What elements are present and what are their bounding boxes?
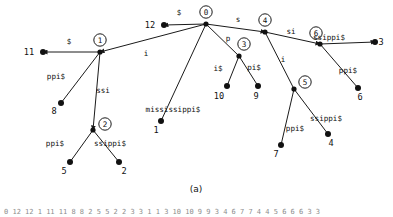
tree-edge <box>164 24 206 25</box>
tree-edge <box>227 56 239 86</box>
tree-edge <box>206 24 265 32</box>
tree-edge <box>206 24 239 56</box>
leaf-node <box>278 142 284 148</box>
suffix-tree-figure: $imississippi$ps$ppi$ssippi$ssippi$i$pi$… <box>0 0 393 217</box>
internal-node-label: 4 <box>263 16 268 25</box>
bottom-strip-text: 0 12 12 1 11 11 8 8 2 5 5 2 2 3 3 1 1 3 … <box>4 208 320 216</box>
internal-node <box>262 29 267 34</box>
edge-label: $ <box>177 8 182 17</box>
leaf-node <box>325 131 331 137</box>
internal-node-label: 5 <box>303 78 308 87</box>
leaf-node-label: 9 <box>253 91 258 101</box>
leaf-node <box>255 83 261 89</box>
edge-label: ssippi$ <box>94 139 126 148</box>
internal-node <box>236 53 241 58</box>
tree-edge <box>281 89 294 145</box>
node-layer <box>40 6 378 165</box>
edge-label: i <box>144 49 149 58</box>
leaf-node <box>372 39 378 45</box>
edge-label: ssippi$ <box>310 114 342 123</box>
leaf-node <box>67 159 73 165</box>
leaf-node-label: 8 <box>51 106 56 116</box>
edge-label: ppi$ <box>339 66 358 75</box>
figure-caption: (a) <box>190 184 203 194</box>
tree-edge <box>70 130 93 162</box>
edge-layer <box>43 24 375 162</box>
leaf-node <box>58 100 64 106</box>
suffix-tree-canvas: $imississippi$ps$ppi$ssippi$ssippi$i$pi$… <box>0 0 393 217</box>
tree-edge <box>320 42 375 44</box>
leaf-node <box>158 118 164 124</box>
internal-node <box>317 41 322 46</box>
internal-node-label: 1 <box>98 36 103 45</box>
edge-label: ppi$ <box>46 139 65 148</box>
edge-label: ssi <box>96 86 110 95</box>
edge-label: p <box>226 34 231 43</box>
edge-label: si <box>286 27 296 36</box>
leaf-node-label: 11 <box>24 47 34 57</box>
leaf-node-label: 7 <box>273 149 278 159</box>
internal-node-label: 2 <box>103 120 108 129</box>
leaf-node-label: 10 <box>214 91 224 101</box>
internal-node-label: 3 <box>242 40 247 49</box>
edge-label: ppi$ <box>47 72 66 81</box>
internal-node <box>90 127 95 132</box>
leaf-node <box>40 49 46 55</box>
internal-node <box>97 49 102 54</box>
leaf-node-label: 4 <box>328 138 333 148</box>
leaf-node <box>355 85 361 91</box>
leaf-node-label: 3 <box>378 37 383 47</box>
edge-label: i <box>281 55 286 64</box>
tree-edge <box>265 32 294 89</box>
internal-node <box>203 21 208 26</box>
edge-label: mississippi$ <box>146 105 201 114</box>
leaf-node-label: 6 <box>357 92 362 102</box>
edge-label: ppi$ <box>286 124 305 133</box>
internal-node-label: 6 <box>314 29 319 38</box>
leaf-node-label: 5 <box>61 166 66 176</box>
edge-label: i$ <box>213 64 223 73</box>
tree-edge <box>61 52 100 103</box>
leaf-node <box>161 22 167 28</box>
edge-label: pi$ <box>247 63 261 72</box>
internal-node <box>291 86 296 91</box>
leaf-node-label: 2 <box>121 166 126 176</box>
internal-node-label: 0 <box>204 8 209 17</box>
leaf-node <box>224 83 230 89</box>
leaf-node <box>116 159 122 165</box>
edge-label: s <box>236 15 241 24</box>
edge-label: $ <box>67 37 72 46</box>
leaf-node-label: 12 <box>145 20 155 30</box>
leaf-node-label: 1 <box>153 125 158 135</box>
